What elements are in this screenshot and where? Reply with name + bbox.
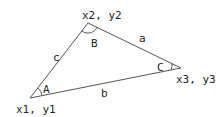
triangle-diagram: x2, y2 x1, y1 x3, y3 c a b A B C (0, 0, 223, 117)
angle-a-arc (38, 88, 42, 96)
angle-c-arc (171, 64, 172, 71)
angle-label-a: A (43, 83, 50, 96)
vertex-label-p3: x3, y3 (176, 73, 216, 86)
side-label-a: a (139, 32, 146, 45)
vertex-label-p1: x1, y1 (16, 103, 56, 116)
side-label-c: c (53, 51, 60, 64)
angle-label-c: C (157, 61, 164, 74)
angle-label-b: B (91, 37, 98, 50)
side-label-b: b (101, 87, 108, 100)
vertex-label-p2: x2, y2 (82, 9, 122, 22)
side-a-line (88, 23, 181, 68)
